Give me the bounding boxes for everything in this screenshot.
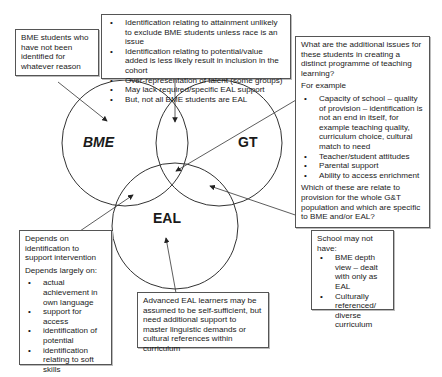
bullet-item: support for access — [25, 307, 106, 326]
gt-label: GT — [238, 134, 257, 150]
box-depends-on-identification: Depends on identification to support int… — [19, 230, 112, 365]
bullet-item: But, not all BME students are EAL — [107, 95, 285, 105]
box-intro: Depends on identification to support int… — [25, 234, 106, 263]
bullet-item: Identification relating to attainment un… — [107, 18, 285, 47]
bullet-item: identification relating to soft skills — [25, 346, 106, 375]
box-text: Advanced EAL learners may be assumed to … — [143, 296, 263, 354]
box-advanced-eal: Advanced EAL learners may be assumed to … — [137, 292, 269, 348]
bullet-item: Ability to access enrichment — [301, 171, 424, 181]
bullet-item: Teacher/student attitudes — [301, 152, 424, 162]
bullet-item: Capacity of school – quality of provisio… — [301, 94, 424, 152]
arrow-bottom-center — [166, 238, 176, 293]
bullet-item: Culturally referenced/ diverse curriculu… — [317, 292, 388, 330]
bullet-item: actual achievement in own language — [25, 278, 106, 307]
box-text: BME students who have not been identifie… — [21, 33, 93, 71]
bullet-item: identification of potential — [25, 326, 106, 345]
eal-label: EAL — [153, 210, 181, 226]
box-closing: Which of these are relate to provision f… — [301, 183, 424, 221]
bullet-item: Identification relating to potential/val… — [107, 47, 285, 76]
arrow-bottom-left — [80, 195, 133, 231]
box-intro: School may not have: — [317, 234, 388, 253]
box-school-may-not-have: School may not have: BME depth view – de… — [311, 230, 394, 310]
bullet-item: BME depth view – dealt with only as EAL — [317, 253, 388, 291]
arrow-right — [176, 100, 296, 171]
box-additional-issues: What are the additional issues for these… — [295, 36, 430, 228]
box-identification-issues: Identification relating to attainment un… — [101, 14, 291, 79]
bullet-item: May lack required/specific EAL support — [107, 85, 285, 95]
bullet-item: Over-representation of talent (some grou… — [107, 76, 285, 86]
box-example-label: For example — [301, 81, 424, 91]
box-unidentified-bme: BME students who have not been identifie… — [15, 29, 99, 76]
arrow-top-left — [58, 82, 107, 121]
bme-label: BME — [83, 134, 114, 150]
box-intro: What are the additional issues for these… — [301, 40, 424, 78]
bullet-item: Parental support — [301, 161, 424, 171]
box-sub: Depends largely on: — [25, 266, 106, 276]
